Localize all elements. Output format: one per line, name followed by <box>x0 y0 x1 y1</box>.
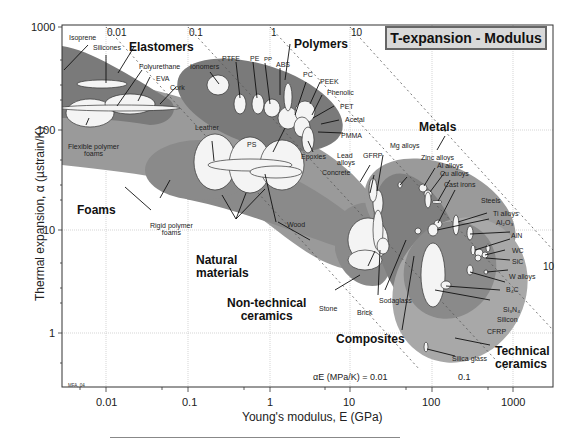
label-polyurethane: Polyurethane <box>139 63 180 70</box>
label-phenolic: Phenolic <box>327 89 354 96</box>
family-composites: Composites <box>336 333 405 346</box>
label-silicon: Silicon <box>497 316 518 323</box>
family-foams: Foams <box>77 204 116 217</box>
guide-bottom-0.1: 0.1 <box>458 373 471 382</box>
label-cfrp: CFRP <box>487 328 506 335</box>
chart-title: T-expansion - Modulus <box>385 26 547 50</box>
footer-rule <box>110 437 400 438</box>
label-sic: SiC <box>512 258 523 265</box>
family-technical-ceramics: Technical ceramics <box>495 345 549 370</box>
label-al-alloys: Al alloys <box>437 162 463 169</box>
y-axis-title: Thermal expansion, α (µstrain/K) <box>34 111 46 301</box>
label-pe: PE <box>250 55 259 62</box>
label-gfrp: GFRP <box>363 152 382 159</box>
label-wc: WC <box>512 247 524 254</box>
label-brick: Brick <box>357 309 373 316</box>
y-tick-1: 1 <box>49 328 55 339</box>
label-rigid-polymer-foams: Rigid polymer foams <box>150 222 193 236</box>
label-silicones: Silicones <box>93 44 121 51</box>
label-w-alloys: W alloys <box>509 273 535 280</box>
label-aln: AlN <box>511 232 522 239</box>
label-si3n4: Si₃N₄ <box>503 306 520 313</box>
label-eva: EVA <box>156 75 170 82</box>
label-flexible-polymer-foams: Flexible polymer foams <box>68 143 119 157</box>
label-sodaglass: Sodaglass <box>379 297 412 304</box>
label-silica-glass: Silica glass <box>452 355 487 362</box>
guide-top-0.1: 0.1 <box>189 28 203 38</box>
label-cork: Cork <box>170 84 185 91</box>
label-ti-alloys: Ti alloys <box>493 210 518 217</box>
x-axis-title: Young's modulus, E (GPa) <box>242 411 383 423</box>
label-pmma: PMMA <box>341 132 362 139</box>
x-tick-100: 100 <box>422 397 440 408</box>
label-ptfe: PTFE <box>222 55 240 62</box>
label-al2o3: Al₂O₃ <box>496 219 513 226</box>
family-metals: Metals <box>419 121 456 134</box>
label-peek: PEEK <box>320 78 339 85</box>
guide-right-10: 10 <box>543 262 554 272</box>
label-epoxies: Epoxies <box>301 153 326 160</box>
guide-top-1: 1 <box>271 28 277 38</box>
label-ps: PS <box>247 141 256 148</box>
label-leather: Leather <box>195 124 219 131</box>
y-tick-1000: 1000 <box>31 22 55 33</box>
label-b4c: B₄C <box>506 286 519 293</box>
family-polymers: Polymers <box>294 38 348 51</box>
label-isoprene: Isoprene <box>69 34 96 41</box>
label-zinc-alloys: Zinc alloys <box>421 154 454 161</box>
family-natural-materials: Natural materials <box>196 254 249 279</box>
x-tick-0.1: 0.1 <box>182 397 197 408</box>
label-concrete: Concrete <box>322 169 350 176</box>
label-pp: PP <box>264 56 272 62</box>
credit-label: MFA, 04 <box>68 383 85 388</box>
label-steels: Steels <box>481 197 500 204</box>
label-cu-alloys: Cu alloys <box>440 170 469 177</box>
label-ionomers: Ionomers <box>190 63 219 70</box>
x-tick-0.01: 0.01 <box>96 397 117 408</box>
label-acetal: Acetal <box>345 116 364 123</box>
label-pet: PET <box>340 103 354 110</box>
family-non-technical-ceramics: Non-technical ceramics <box>227 297 306 322</box>
label-stone: Stone <box>319 305 337 312</box>
x-tick-10: 10 <box>343 397 355 408</box>
guide-top-0.01: 0.01 <box>107 28 126 38</box>
guide-bottom-label: αE (MPa/K) = 0.01 <box>313 373 387 382</box>
guide-top-10: 10 <box>351 28 362 38</box>
label-abs: ABS <box>276 61 290 68</box>
label-pc: PC <box>303 71 313 78</box>
label-mg-alloys: Mg alloys <box>390 142 420 149</box>
family-elastomers: Elastomers <box>129 41 194 54</box>
label-lead-alloys: Lead alloys <box>337 152 355 166</box>
label-wood: Wood <box>287 221 305 228</box>
x-tick-1000: 1000 <box>501 397 525 408</box>
label-cast-irons: Cast irons <box>444 181 476 188</box>
x-tick-1: 1 <box>267 397 273 408</box>
